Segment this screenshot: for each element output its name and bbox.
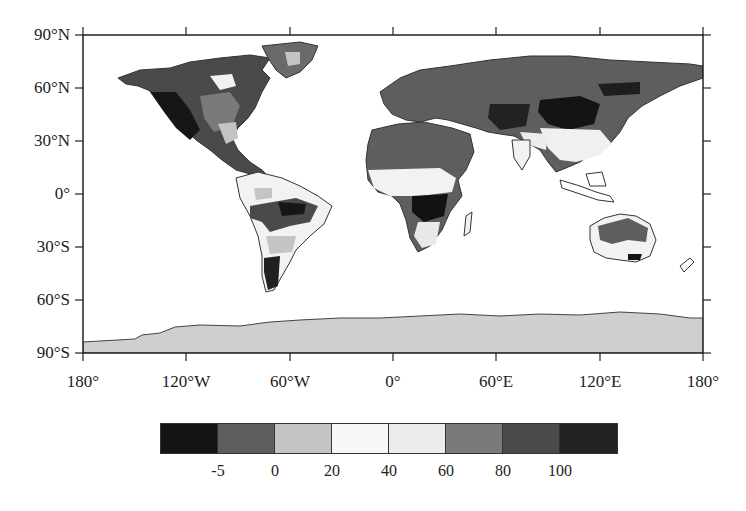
- colorbar-label: 100: [540, 462, 580, 480]
- colorbar-label: 60: [426, 462, 466, 480]
- south-america: [236, 172, 332, 292]
- colorbar-label: 20: [312, 462, 352, 480]
- y-tick-label: 90°S: [4, 343, 70, 363]
- x-tick-label: 120°E: [560, 372, 640, 392]
- colorbar-label: 80: [483, 462, 523, 480]
- colorbar: [160, 423, 618, 454]
- colorbar-swatch: [560, 424, 617, 453]
- y-tick-label: 60°N: [4, 78, 70, 98]
- colorbar-swatch: [275, 424, 332, 453]
- colorbar-label: 40: [369, 462, 409, 480]
- colorbar-swatch: [161, 424, 218, 453]
- colorbar-swatch: [389, 424, 446, 453]
- x-tick-label: 0°: [353, 372, 433, 392]
- x-tick-label: 120°W: [146, 372, 226, 392]
- y-tick-label: 90°N: [4, 25, 70, 45]
- y-tick-label: 30°N: [4, 131, 70, 151]
- colorbar-swatch: [503, 424, 560, 453]
- colorbar-label: 0: [255, 462, 295, 480]
- colorbar-label: -5: [198, 462, 238, 480]
- y-tick-label: 0°: [4, 184, 70, 204]
- x-tick-label: 60°E: [456, 372, 536, 392]
- y-tick-label: 60°S: [4, 290, 70, 310]
- colorbar-swatch: [218, 424, 275, 453]
- colorbar-swatch: [332, 424, 389, 453]
- y-tick-label: 30°S: [4, 237, 70, 257]
- antarctica: [83, 312, 703, 353]
- colorbar-swatch: [446, 424, 503, 453]
- x-tick-label: 180°: [43, 372, 123, 392]
- x-tick-label: 60°W: [250, 372, 330, 392]
- x-tick-label: 180°: [663, 372, 743, 392]
- madagascar: [464, 212, 472, 236]
- land-masses: [83, 42, 703, 353]
